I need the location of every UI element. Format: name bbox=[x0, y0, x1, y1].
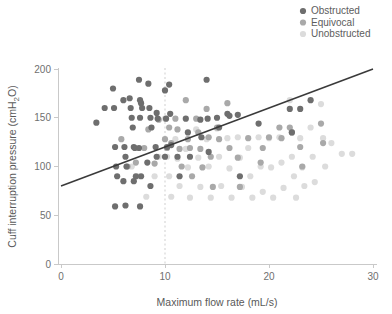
legend-item-obstructed[interactable]: Obstructed bbox=[300, 5, 360, 16]
legend-marker-icon bbox=[300, 19, 306, 25]
data-point bbox=[226, 165, 232, 171]
data-point bbox=[110, 85, 116, 91]
data-point bbox=[195, 155, 201, 161]
data-point bbox=[235, 112, 241, 118]
data-point bbox=[148, 124, 154, 130]
data-point bbox=[287, 106, 293, 112]
data-point bbox=[128, 105, 134, 111]
data-point bbox=[245, 145, 251, 151]
data-point bbox=[210, 184, 216, 190]
data-point bbox=[111, 105, 117, 111]
data-point bbox=[308, 124, 314, 130]
data-point bbox=[293, 195, 299, 201]
data-point bbox=[197, 117, 203, 123]
data-point bbox=[260, 145, 266, 151]
y-tick-label: 200 bbox=[34, 64, 51, 75]
data-point bbox=[154, 110, 160, 116]
data-point bbox=[310, 154, 316, 160]
data-point bbox=[154, 154, 160, 160]
data-point bbox=[136, 77, 142, 83]
data-point bbox=[235, 134, 241, 140]
chart-canvas: ObstructedEquivocalUnobstructed 05010015… bbox=[0, 0, 392, 314]
x-tick-label: 10 bbox=[159, 271, 171, 282]
data-point bbox=[312, 179, 318, 185]
legend-label: Unobstructed bbox=[311, 28, 370, 39]
data-point bbox=[187, 145, 193, 151]
data-point bbox=[198, 134, 204, 140]
data-point bbox=[162, 154, 168, 160]
series-obstructed bbox=[93, 77, 313, 210]
data-point bbox=[118, 136, 124, 142]
data-point bbox=[289, 154, 295, 160]
data-point bbox=[176, 173, 182, 179]
data-point bbox=[174, 126, 180, 132]
data-point bbox=[204, 106, 210, 112]
data-point bbox=[127, 95, 133, 101]
data-point bbox=[226, 145, 232, 151]
data-point bbox=[289, 129, 295, 135]
data-point bbox=[129, 115, 135, 121]
data-point bbox=[183, 97, 189, 103]
data-point bbox=[216, 136, 222, 142]
data-point bbox=[270, 195, 276, 201]
data-point bbox=[179, 163, 185, 169]
data-point bbox=[339, 151, 345, 157]
data-point bbox=[174, 154, 180, 160]
data-point bbox=[120, 178, 126, 184]
data-point bbox=[308, 97, 314, 103]
data-point bbox=[247, 173, 253, 179]
data-point bbox=[185, 164, 191, 170]
data-point bbox=[93, 120, 99, 126]
data-point bbox=[187, 154, 193, 160]
scatter-plot-figure: ObstructedEquivocalUnobstructed 05010015… bbox=[0, 0, 392, 314]
data-point bbox=[143, 194, 149, 200]
data-point bbox=[166, 82, 172, 88]
data-point bbox=[199, 164, 205, 170]
data-point bbox=[291, 173, 297, 179]
data-point bbox=[183, 116, 189, 122]
x-tick-label: 30 bbox=[367, 271, 379, 282]
y-tick-label: 50 bbox=[40, 210, 52, 221]
data-point bbox=[208, 195, 214, 201]
data-point bbox=[349, 151, 355, 157]
y-tick-label: 0 bbox=[45, 259, 51, 270]
data-point bbox=[237, 173, 243, 179]
data-point bbox=[102, 105, 108, 111]
legend-marker-icon bbox=[300, 31, 306, 37]
data-point bbox=[166, 173, 172, 179]
x-tick-label: 0 bbox=[58, 271, 64, 282]
legend-item-equivocal[interactable]: Equivocal bbox=[300, 17, 354, 28]
data-point bbox=[235, 155, 241, 161]
data-point bbox=[280, 185, 286, 191]
data-point bbox=[114, 173, 120, 179]
legend-item-unobstructed[interactable]: Unobstructed bbox=[300, 28, 371, 39]
data-point bbox=[144, 160, 150, 166]
data-point bbox=[228, 195, 234, 201]
data-point bbox=[258, 160, 264, 166]
data-point bbox=[131, 178, 137, 184]
data-point bbox=[301, 183, 307, 189]
data-point bbox=[133, 160, 139, 166]
data-point bbox=[172, 116, 178, 122]
data-point bbox=[176, 183, 182, 189]
data-point bbox=[205, 116, 211, 122]
data-point bbox=[204, 77, 210, 83]
data-point bbox=[206, 149, 212, 155]
data-point bbox=[297, 106, 303, 112]
data-point bbox=[206, 163, 212, 169]
data-point bbox=[268, 164, 274, 170]
data-point bbox=[146, 105, 152, 111]
data-point bbox=[121, 144, 127, 150]
data-point bbox=[147, 115, 153, 121]
data-point bbox=[260, 189, 266, 195]
x-axis-title: Maximum flow rate (mL/s) bbox=[157, 296, 278, 308]
chart-axes: 0501001502000102030 bbox=[34, 64, 379, 283]
y-axis-title: Cuff interruption pressure (cmH2O) bbox=[6, 85, 21, 247]
data-point bbox=[137, 115, 143, 121]
data-point bbox=[226, 113, 232, 119]
data-point bbox=[218, 183, 224, 189]
data-point bbox=[245, 135, 251, 141]
data-point bbox=[112, 144, 118, 150]
y-tick-label: 100 bbox=[34, 161, 51, 172]
data-point bbox=[162, 136, 168, 142]
